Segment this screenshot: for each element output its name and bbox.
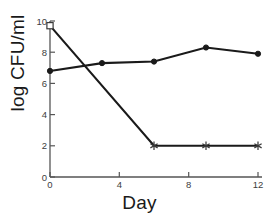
y-axis-title: log CFU/ml bbox=[7, 0, 29, 133]
y-tick-labels: 0 2 4 6 8 10 bbox=[36, 16, 47, 183]
x-tick-label-12: 12 bbox=[253, 179, 264, 190]
y-tick-marks bbox=[50, 21, 55, 177]
x-tick-label-4: 4 bbox=[117, 179, 122, 190]
x-tick-marks bbox=[50, 172, 258, 177]
x-tick-labels: 0 4 8 12 bbox=[47, 179, 263, 190]
series-layer bbox=[47, 23, 262, 150]
x-tick-label-0: 0 bbox=[47, 179, 52, 190]
axis-group bbox=[50, 21, 262, 177]
y-tick-label-4: 4 bbox=[42, 109, 47, 120]
line-chart-plot: 0 2 4 6 8 10 0 4 8 12 bbox=[0, 0, 279, 218]
data-point-marker bbox=[47, 68, 52, 73]
y-tick-label-2: 2 bbox=[42, 140, 47, 151]
data-point-marker bbox=[99, 61, 104, 66]
y-tick-label-10: 10 bbox=[36, 16, 47, 27]
y-tick-label-8: 8 bbox=[42, 47, 47, 58]
data-point-marker bbox=[47, 23, 53, 29]
x-axis-title: Day bbox=[0, 192, 279, 214]
series-line-open-square-asterisk-series bbox=[50, 26, 258, 146]
data-point-marker bbox=[255, 51, 260, 56]
y-tick-label-0: 0 bbox=[42, 172, 47, 183]
y-tick-label-6: 6 bbox=[42, 78, 47, 89]
chart-figure: 0 2 4 6 8 10 0 4 8 12 log CFU/ml Day bbox=[0, 0, 279, 218]
data-point-marker bbox=[203, 45, 208, 50]
data-point-marker bbox=[151, 59, 156, 64]
x-tick-label-8: 8 bbox=[186, 179, 191, 190]
